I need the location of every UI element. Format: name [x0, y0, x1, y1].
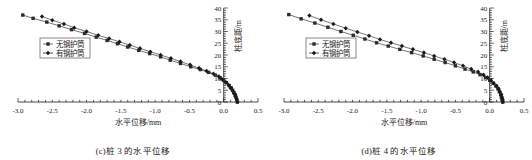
x-axis-tick-label: -1.5	[115, 107, 127, 115]
data-point-marker-square	[21, 13, 24, 16]
legend-marker-square	[46, 42, 49, 45]
x-axis-title: 水平位移/mm	[115, 117, 162, 127]
x-axis-tick-label: -2.0	[347, 107, 359, 115]
y-axis-tick-label: 30	[480, 28, 488, 36]
legend-label: 无钢护筒	[56, 39, 85, 49]
data-point-marker-diamond	[319, 17, 323, 22]
figure-row: -3.0-2.5-2.0-1.5-1.0-0.50.00.5水平位移/mm051…	[0, 0, 532, 160]
y-axis-tick-label: 20	[480, 52, 488, 60]
figure-caption-c: (c)桩 3 的水平位移	[0, 144, 266, 156]
x-axis-tick-label: -1.5	[381, 107, 393, 115]
data-point-marker-square	[363, 37, 366, 40]
x-axis-tick-label: -1.0	[416, 107, 428, 115]
plot-area-d: -3.0-2.5-2.0-1.5-1.0-0.50.00.5水平位移/mm051…	[266, 0, 532, 132]
x-axis-tick-label: -0.5	[184, 107, 196, 115]
y-axis-tick-label: 0	[484, 99, 488, 107]
data-point-marker-square	[299, 17, 302, 20]
y-axis-tick-label: 0	[218, 99, 222, 107]
data-point-marker-diamond	[40, 14, 44, 19]
data-point-marker-diamond	[355, 30, 359, 35]
y-axis-title: 桩底距/m	[233, 19, 243, 52]
data-point-marker-square	[398, 48, 401, 51]
y-axis-tick-label: 30	[214, 28, 222, 36]
data-point-marker-square	[463, 67, 466, 70]
chart-svg-c: -3.0-2.5-2.0-1.5-1.0-0.50.00.5水平位移/mm051…	[0, 0, 266, 132]
data-point-marker-square	[422, 54, 425, 57]
y-axis-tick-label: 35	[214, 16, 222, 24]
series-line-1	[23, 15, 238, 102]
y-axis-tick-label: 15	[214, 63, 222, 71]
data-point-marker-square	[387, 44, 390, 47]
data-point-marker-diamond	[378, 37, 382, 42]
data-point-marker-diamond	[344, 26, 348, 31]
chart-svg-d: -3.0-2.5-2.0-1.5-1.0-0.50.00.5水平位移/mm051…	[266, 0, 532, 132]
plot-area-c: -3.0-2.5-2.0-1.5-1.0-0.50.00.5水平位移/mm051…	[0, 0, 266, 132]
x-axis-title: 水平位移/mm	[381, 117, 428, 127]
x-axis-tick-label: -3.0	[12, 107, 24, 115]
legend-marker-square	[312, 42, 315, 45]
y-axis-tick-label: 5	[218, 87, 222, 95]
x-axis-tick-label: -2.5	[313, 107, 325, 115]
x-axis-tick-label: -2.5	[47, 107, 59, 115]
x-axis-tick-label: -3.0	[278, 107, 290, 115]
chart-panel-d: -3.0-2.5-2.0-1.5-1.0-0.50.00.5水平位移/mm051…	[266, 0, 532, 160]
x-axis-tick-label: 0.5	[254, 107, 263, 115]
data-point-marker-square	[287, 13, 290, 16]
data-point-marker-diamond	[331, 22, 335, 27]
data-point-marker-square	[443, 61, 446, 64]
data-point-marker-square	[375, 41, 378, 44]
x-axis-tick-label: -2.0	[81, 107, 93, 115]
data-point-marker-square	[326, 26, 329, 29]
y-axis-tick-label: 40	[480, 5, 488, 13]
y-axis-tick-label: 25	[480, 40, 488, 48]
y-axis-tick-label: 15	[480, 63, 488, 71]
chart-legend: 无钢护筒有钢护筒	[306, 38, 356, 58]
legend-label: 无钢护筒	[322, 39, 351, 49]
series-line-2	[309, 16, 502, 102]
y-axis-tick-label: 5	[484, 87, 488, 95]
x-axis-tick-label: -0.5	[450, 107, 462, 115]
data-point-marker-square	[339, 30, 342, 33]
data-point-marker-square	[313, 21, 316, 24]
x-axis-tick-label: -1.0	[150, 107, 162, 115]
data-point-marker-diamond	[367, 33, 371, 38]
x-axis-tick-label: 0.0	[485, 107, 494, 115]
y-axis-tick-label: 20	[214, 52, 222, 60]
data-point-marker-square	[45, 20, 48, 23]
x-axis-tick-label: 0.5	[520, 107, 529, 115]
data-point-marker-square	[352, 34, 355, 37]
data-point-marker-diamond	[62, 22, 66, 27]
chart-legend: 无钢护筒有钢护筒	[40, 38, 90, 58]
y-axis-tick-label: 40	[214, 5, 222, 13]
y-axis-tick-label: 35	[480, 16, 488, 24]
chart-panel-c: -3.0-2.5-2.0-1.5-1.0-0.50.00.5水平位移/mm051…	[0, 0, 266, 160]
data-point-marker-square	[57, 24, 60, 27]
figure-caption-d: (d)桩 4 的水平位移	[266, 144, 532, 156]
legend-label: 有钢护筒	[322, 48, 351, 58]
data-point-marker-square	[70, 28, 73, 31]
data-point-marker-diamond	[307, 13, 311, 18]
data-point-marker-square	[31, 17, 34, 20]
x-axis-tick-label: 0.0	[219, 107, 228, 115]
y-axis-tick-label: 25	[214, 40, 222, 48]
y-axis-title: 桩底距/m	[499, 19, 509, 52]
data-point-marker-diamond	[50, 18, 54, 23]
legend-label: 有钢护筒	[56, 48, 85, 58]
